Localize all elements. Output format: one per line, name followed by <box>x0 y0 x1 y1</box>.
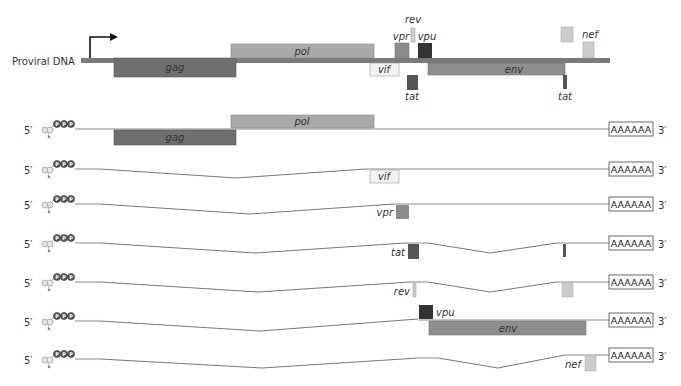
cap-icon <box>42 195 75 213</box>
transcript-6-vpu-env: 5′ vpu env AAAAAA 3′ <box>24 305 667 335</box>
cap-icon <box>42 312 75 330</box>
intron-line <box>100 358 418 368</box>
gene-tat-label: tat <box>405 91 420 102</box>
three-prime-label: 3′ <box>658 165 667 176</box>
gene-env-label: env <box>499 323 518 334</box>
gene-vpu-label: vpu <box>436 307 455 318</box>
three-prime-label: 3′ <box>658 316 667 327</box>
intron-line <box>100 243 405 253</box>
transcript-3-vpr: 5′ vpr AAAAAA 3′ <box>24 195 667 219</box>
gene-vpr-label: vpr <box>393 31 410 42</box>
transcript-7-nef: 5′ nef AAAAAA 3′ <box>24 348 667 371</box>
gene-nef <box>585 356 596 371</box>
gene-nef-label: nef <box>565 359 582 370</box>
transcript-5-rev: 5′ rev AAAAAA 3′ <box>24 273 667 297</box>
gene-tat <box>407 75 418 90</box>
polya-label: AAAAAA <box>611 277 652 288</box>
gene-rev-exon2 <box>561 27 573 42</box>
intron-line <box>438 355 565 368</box>
intron-line <box>428 282 557 292</box>
gene-tat <box>408 244 419 259</box>
five-prime-label: 5′ <box>24 239 33 250</box>
three-prime-label: 3′ <box>658 239 667 250</box>
transcript-2-vif: 5′ vif AAAAAA 3′ <box>24 160 667 183</box>
gene-vpu <box>418 43 432 58</box>
gene-env <box>428 63 565 75</box>
three-prime-label: 3′ <box>658 278 667 289</box>
intron-line <box>100 319 418 331</box>
gene-vif-label: vif <box>378 171 392 182</box>
polya-label: AAAAAA <box>611 199 652 210</box>
intron-line <box>100 204 394 214</box>
gene-vpu-label: vpu <box>418 31 437 42</box>
gene-rev <box>411 28 415 42</box>
gene-nef-label: nef <box>582 29 599 40</box>
gene-rev <box>413 283 416 297</box>
gene-gag-label: gag <box>166 132 185 143</box>
transcript-1-unspliced: 5′ gag pol AAAAAA 3′ <box>24 115 667 145</box>
gene-vpu <box>419 305 433 319</box>
polya-label: AAAAAA <box>611 238 652 249</box>
promoter-arrow-icon <box>90 33 118 60</box>
gene-tat-exon2 <box>563 75 567 89</box>
three-prime-label: 3′ <box>658 200 667 211</box>
intron-line <box>100 282 410 292</box>
gene-tat-exon2 <box>563 244 566 257</box>
gene-rev-label: rev <box>405 14 422 25</box>
five-prime-label: 5′ <box>24 317 33 328</box>
five-prime-label: 5′ <box>24 278 33 289</box>
gene-pol-label: pol <box>293 116 309 127</box>
polya-label: AAAAAA <box>611 124 652 135</box>
gene-vpr <box>395 43 409 58</box>
three-prime-label: 3′ <box>658 351 667 362</box>
three-prime-label: 3′ <box>658 125 667 136</box>
hiv-transcript-diagram: P P P Proviral DNA gag pol vif vpr rev v… <box>0 0 681 386</box>
five-prime-label: 5′ <box>24 165 33 176</box>
gene-tat-label: tat <box>391 247 406 258</box>
intron-line <box>100 169 366 178</box>
polya-label: AAAAAA <box>611 164 652 175</box>
gene-nef <box>583 42 594 58</box>
polya-label: AAAAAA <box>611 350 652 361</box>
five-prime-label: 5′ <box>24 355 33 366</box>
cap-icon <box>42 234 75 252</box>
proviral-dna-label: Proviral DNA <box>12 56 75 67</box>
gene-vif-label: vif <box>378 64 392 75</box>
gene-env-label: env <box>505 64 524 75</box>
gene-vpr-label: vpr <box>377 207 394 218</box>
gene-vpr <box>396 205 409 219</box>
polya-label: AAAAAA <box>611 315 652 326</box>
five-prime-label: 5′ <box>24 125 33 136</box>
transcript-4-tat: 5′ tat AAAAAA 3′ <box>24 234 667 259</box>
cap-icon <box>42 120 75 138</box>
gene-pol-label: pol <box>293 46 309 57</box>
gene-tat2-label: tat <box>558 91 573 102</box>
cap-icon <box>42 273 75 291</box>
proviral-dna: Proviral DNA gag pol vif vpr rev vpu tat… <box>12 14 610 102</box>
five-prime-label: 5′ <box>24 200 33 211</box>
gene-rev-exon2 <box>562 283 573 297</box>
intron-line <box>428 243 557 253</box>
cap-icon <box>42 160 75 178</box>
gene-rev-label: rev <box>394 286 411 297</box>
cap-icon <box>42 350 75 368</box>
gene-gag-label: gag <box>166 62 185 73</box>
